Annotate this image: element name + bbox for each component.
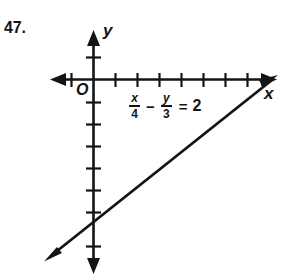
fraction-numerator-x: x	[129, 92, 140, 105]
fraction-numerator-y: y	[161, 92, 172, 105]
graph-figure: 47.	[0, 0, 283, 278]
fraction-denominator-3: 3	[161, 107, 172, 120]
y-axis-top-arrowhead	[87, 30, 100, 46]
y-axis-label: y	[103, 22, 112, 39]
y-axis-bottom-arrowhead	[87, 258, 100, 274]
x-axis-label: x	[264, 85, 273, 102]
fraction-denominator-4: 4	[129, 107, 140, 120]
origin-label: O	[76, 82, 88, 98]
minus-operator: −	[146, 99, 155, 114]
coordinate-plane-svg	[0, 0, 283, 278]
fraction-y-over-3: y 3	[161, 92, 172, 120]
x-axis-left-arrowhead	[50, 73, 66, 86]
equals-sign: =	[179, 99, 188, 114]
equation: x 4 − y 3 = 2	[128, 92, 201, 120]
equation-right-side: 2	[193, 98, 202, 114]
fraction-x-over-4: x 4	[129, 92, 140, 120]
